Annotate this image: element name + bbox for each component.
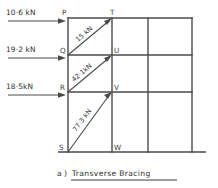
caption-label: Transverse Bracing	[71, 169, 151, 178]
node-label-Q: Q	[60, 46, 66, 55]
brace-value-QT: 15 kN	[74, 25, 94, 44]
load-arrowhead-P	[58, 18, 66, 23]
node-label-V: V	[114, 83, 119, 92]
brace-arrowhead-SV	[104, 92, 112, 99]
node-label-U: U	[114, 46, 119, 55]
node-label-S: S	[59, 143, 64, 152]
node-label-R: R	[60, 83, 65, 92]
node-label-W: W	[114, 143, 121, 152]
frame-columns	[68, 18, 192, 152]
bracing-diagram: 10·6 kN 19·2 kN 18·5kN 15 kN 42·1kN 77·3…	[0, 0, 218, 188]
brace-value-SV: 77·3 kN	[71, 107, 93, 133]
node-label-P: P	[62, 8, 67, 17]
transverse-bracing-figure: 10·6 kN 19·2 kN 18·5kN 15 kN 42·1kN 77·3…	[0, 0, 218, 188]
load-value-P: 10·6 kN	[6, 8, 36, 17]
load-value-R: 18·5kN	[6, 82, 33, 91]
load-value-Q: 19·2 kN	[6, 45, 36, 54]
node-label-T: T	[109, 8, 115, 17]
caption-prefix: a )	[57, 169, 67, 178]
load-arrowhead-Q	[58, 55, 66, 60]
load-arrowhead-R	[58, 92, 66, 97]
